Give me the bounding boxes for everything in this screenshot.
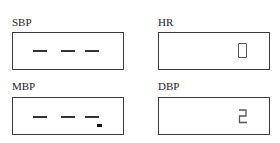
dbp-display bbox=[158, 97, 270, 135]
dash-icon bbox=[85, 116, 99, 118]
dash-icon bbox=[33, 50, 47, 52]
sbp-display bbox=[12, 32, 124, 70]
hr-value-digit bbox=[238, 43, 247, 58]
hr-label: HR bbox=[158, 16, 173, 28]
mbp-display bbox=[12, 97, 124, 135]
dash-icon bbox=[61, 50, 75, 52]
dash-icon bbox=[85, 50, 99, 52]
hr-display bbox=[158, 32, 270, 70]
dash-icon bbox=[61, 116, 75, 118]
dbp-label: DBP bbox=[158, 80, 179, 92]
mbp-label: MBP bbox=[12, 80, 35, 92]
indicator-dot-icon bbox=[97, 124, 102, 127]
sbp-label: SBP bbox=[12, 16, 32, 28]
dash-icon bbox=[33, 116, 47, 118]
dbp-value-digit bbox=[238, 109, 248, 124]
